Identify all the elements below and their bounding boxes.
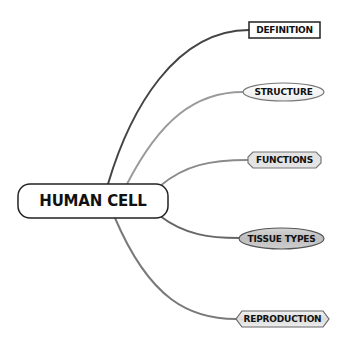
structure-node-label: STRUCTURE	[243, 83, 324, 101]
reproduction-node-label: REPRODUCTION	[236, 311, 329, 327]
functions-node-label: FUNCTIONS	[248, 152, 321, 168]
connector-tissue-types	[160, 216, 239, 238]
root-node-label: HUMAN CELL	[18, 184, 168, 218]
connector-reproduction	[115, 218, 236, 319]
tissue-types-node-label: TISSUE TYPES	[239, 228, 324, 249]
connector-functions	[160, 160, 248, 186]
definition-node-label: DEFINITION	[249, 22, 320, 38]
mind-map-canvas	[0, 0, 343, 347]
